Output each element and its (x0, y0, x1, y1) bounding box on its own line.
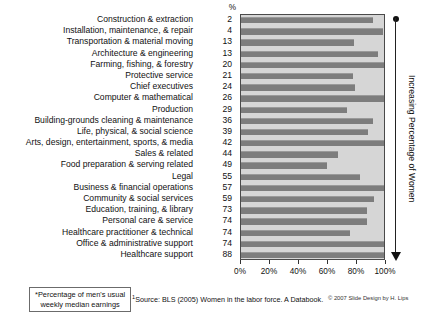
category-label: Arts, design, entertainment, sports, & m… (0, 137, 196, 148)
bar-row (241, 37, 384, 48)
percent-women-value: 2 (196, 14, 236, 25)
category-label: Healthcare support (0, 249, 196, 260)
bar (241, 39, 354, 45)
category-label: Production (0, 104, 196, 115)
category-label: Architecture & engineering (0, 48, 196, 59)
bar (241, 218, 367, 224)
chart-container: Construction & extractionInstallation, m… (0, 0, 443, 320)
bar (241, 162, 327, 168)
bar (241, 118, 373, 124)
source-note: 1Source: BLS (2005) Women in the labor f… (132, 294, 323, 304)
percent-women-value: 57 (196, 182, 236, 193)
bar (241, 230, 350, 236)
bar-row (241, 71, 384, 82)
category-label: Healthcare practitioner & technical (0, 227, 196, 238)
x-tick-label: 40% (290, 267, 306, 276)
category-label: Personal care & service (0, 215, 196, 226)
bar (241, 196, 374, 202)
x-tick-label: 0% (234, 267, 246, 276)
x-tick (269, 260, 270, 264)
category-label: Chief executives (0, 81, 196, 92)
bar (241, 84, 355, 90)
bar-row (241, 216, 384, 227)
bar-row (241, 172, 384, 183)
bar (241, 174, 360, 180)
percent-women-column: 2413132021242629363942444955575973747474… (196, 14, 236, 260)
category-label: Business & financial operations (0, 182, 196, 193)
bar-row (241, 26, 384, 37)
copyright-note: © 2007 Slide Design by H. Lips (328, 295, 408, 301)
bar-row (241, 205, 384, 216)
percent-women-value: 55 (196, 171, 236, 182)
category-axis-labels: Construction & extractionInstallation, m… (0, 14, 196, 260)
percent-women-value: 26 (196, 92, 236, 103)
bar-row (241, 93, 384, 104)
x-tick (356, 260, 357, 264)
percent-women-value: 74 (196, 227, 236, 238)
bar (241, 129, 368, 135)
earnings-note-line-2: weekly median earnings (35, 300, 125, 310)
category-label: Transportation & material moving (0, 36, 196, 47)
x-tick (298, 260, 299, 264)
category-label: Building-grounds cleaning & maintenance (0, 115, 196, 126)
category-label: Sales & related (0, 148, 196, 159)
bar (241, 107, 347, 113)
annotation-text-wrap: Increasing Percentage of Women (402, 14, 422, 264)
percent-women-value: 21 (196, 70, 236, 81)
bar-row (241, 116, 384, 127)
arrow-down-icon (391, 252, 401, 261)
plot-area (240, 14, 385, 260)
bar (241, 207, 367, 213)
percent-women-value: 44 (196, 148, 236, 159)
bar (241, 140, 384, 146)
category-label: Office & administrative support (0, 238, 196, 249)
bar-row (241, 138, 384, 149)
bar-row (241, 228, 384, 239)
x-tick-label: 80% (348, 267, 364, 276)
x-tick (240, 260, 241, 264)
percent-women-value: 42 (196, 137, 236, 148)
percent-women-value: 29 (196, 104, 236, 115)
bar (241, 28, 383, 34)
bar (241, 252, 384, 258)
bar-row (241, 49, 384, 60)
percent-women-value: 39 (196, 126, 236, 137)
bar-row (241, 183, 384, 194)
bar-rows (241, 15, 384, 259)
bar (241, 185, 384, 191)
category-label: Protective service (0, 70, 196, 81)
bar-row (241, 82, 384, 93)
x-tick-label: 20% (261, 267, 277, 276)
x-tick-label: 100% (375, 267, 396, 276)
percent-women-value: 13 (196, 48, 236, 59)
bar-row (241, 127, 384, 138)
bar-row (241, 160, 384, 171)
percent-women-value: 36 (196, 115, 236, 126)
category-label: Installation, maintenance, & repair (0, 25, 196, 36)
earnings-note-box: *Percentage of men's usual weekly median… (29, 287, 131, 312)
bar-row (241, 194, 384, 205)
category-label: Education, training, & library (0, 204, 196, 215)
source-text: Source: BLS (2005) Women in the labor fo… (135, 295, 323, 304)
x-axis-ticks (240, 260, 385, 266)
bar (241, 241, 384, 247)
category-label: Life, physical, & social science (0, 126, 196, 137)
x-axis-tick-labels: 0%20%40%60%80%100% (212, 267, 417, 279)
percent-women-value: 73 (196, 204, 236, 215)
percent-women-value: 74 (196, 238, 236, 249)
bar-row (241, 149, 384, 160)
percent-women-value: 49 (196, 159, 236, 170)
bar (241, 17, 373, 23)
category-label: Food preparation & serving related (0, 159, 196, 170)
bar-row (241, 60, 384, 71)
x-tick (327, 260, 328, 264)
percent-women-value: 74 (196, 215, 236, 226)
percent-women-value: 13 (196, 36, 236, 47)
bar (241, 73, 353, 79)
bar (241, 151, 338, 157)
x-tick-label: 60% (319, 267, 335, 276)
x-tick (385, 260, 386, 264)
category-label: Community & social services (0, 193, 196, 204)
bar-row (241, 239, 384, 250)
category-label: Computer & mathematical (0, 92, 196, 103)
